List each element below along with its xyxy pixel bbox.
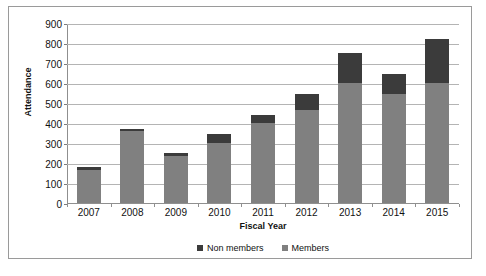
x-axis-tick-mark: [415, 204, 416, 207]
y-axis-tick-label: 200: [45, 159, 62, 170]
bar-segment-members: [120, 131, 144, 203]
bar-segment-non-members: [251, 115, 275, 123]
gridline: [67, 64, 459, 65]
bar-segment-members: [77, 170, 101, 203]
y-axis-tick-mark: [64, 164, 67, 165]
y-axis-tick-mark: [64, 44, 67, 45]
x-axis-title: Fiscal Year: [67, 221, 459, 231]
y-axis-tick-mark: [64, 144, 67, 145]
bar-segment-non-members: [77, 167, 101, 170]
x-axis-tick-mark: [285, 204, 286, 207]
x-axis-tick-mark: [67, 204, 68, 207]
y-axis-tick-label: 400: [45, 119, 62, 130]
gridline: [67, 24, 459, 25]
y-axis-title: Attendance: [23, 32, 33, 152]
x-axis-tick-mark: [241, 204, 242, 207]
bar-segment-non-members: [425, 39, 449, 83]
bar-segment-members: [295, 110, 319, 203]
y-axis-tick-label: 100: [45, 179, 62, 190]
bar-segment-members: [207, 143, 231, 203]
y-axis-tick-mark: [64, 184, 67, 185]
bar-segment-members: [425, 83, 449, 203]
y-axis-tick-mark: [64, 124, 67, 125]
x-axis-tick-mark: [328, 204, 329, 207]
plot-area: 0100200300400500600700800900 20072008200…: [67, 24, 459, 204]
bar-segment-members: [382, 94, 406, 203]
bar-segment-non-members: [338, 53, 362, 83]
y-axis-tick-mark: [64, 84, 67, 85]
y-axis-tick-label: 500: [45, 99, 62, 110]
bar-segment-non-members: [164, 153, 188, 156]
x-axis-tick-mark: [459, 204, 460, 207]
legend-label: Members: [292, 243, 330, 253]
legend-swatch-icon: [282, 245, 288, 251]
bar-segment-non-members: [207, 134, 231, 143]
bar-segment-members: [338, 83, 362, 203]
x-axis-tick-mark: [372, 204, 373, 207]
bar-segment-members: [251, 123, 275, 203]
y-axis-tick-mark: [64, 104, 67, 105]
x-axis-tick-mark: [154, 204, 155, 207]
legend-item[interactable]: Members: [282, 243, 330, 253]
y-axis-tick-mark: [64, 64, 67, 65]
x-axis-tick-label: 2015: [407, 207, 467, 218]
chart-legend: Non membersMembers: [67, 243, 459, 253]
chart-container: Attendance 0100200300400500600700800900 …: [8, 6, 472, 259]
y-axis-tick-label: 700: [45, 59, 62, 70]
bar-segment-members: [164, 156, 188, 203]
bar-segment-non-members: [120, 129, 144, 131]
y-axis-tick-label: 900: [45, 19, 62, 30]
bar-segment-non-members: [295, 94, 319, 110]
x-axis-tick-mark: [198, 204, 199, 207]
legend-swatch-icon: [197, 245, 203, 251]
y-axis-tick-mark: [64, 24, 67, 25]
gridline: [67, 44, 459, 45]
x-axis-tick-mark: [111, 204, 112, 207]
bar-segment-non-members: [382, 74, 406, 94]
y-axis-tick-label: 600: [45, 79, 62, 90]
legend-item[interactable]: Non members: [197, 243, 264, 253]
legend-label: Non members: [207, 243, 264, 253]
y-axis-tick-label: 800: [45, 39, 62, 50]
y-axis-tick-label: 300: [45, 139, 62, 150]
